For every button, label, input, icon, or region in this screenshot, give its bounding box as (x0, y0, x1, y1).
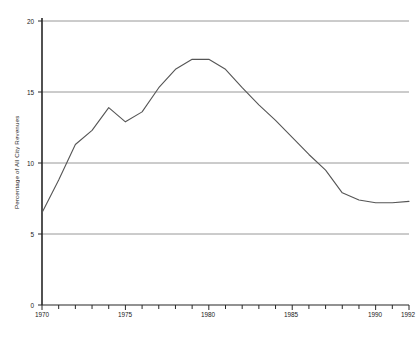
x-tick-label-1992: 1992 (401, 311, 415, 318)
y-tick-label-10: 10 (22, 160, 34, 167)
x-axis-ticks (42, 305, 409, 310)
gridlines (42, 21, 409, 234)
x-tick-label-1990: 1990 (368, 311, 382, 318)
x-tick-label-1975: 1975 (118, 311, 132, 318)
chart-figure: Percentage of All City Revenues 0 5 10 1… (0, 0, 416, 337)
y-tick-label-0: 0 (22, 302, 34, 309)
x-tick-label-1980: 1980 (201, 311, 215, 318)
figure-caption (44, 330, 384, 337)
x-tick-label-1970: 1970 (35, 311, 49, 318)
y-tick-label-5: 5 (22, 231, 34, 238)
data-line-series-0 (42, 59, 409, 212)
y-tick-label-20: 20 (22, 18, 34, 25)
plot-area (0, 0, 416, 337)
x-tick-label-1985: 1985 (284, 311, 298, 318)
y-tick-label-15: 15 (22, 89, 34, 96)
